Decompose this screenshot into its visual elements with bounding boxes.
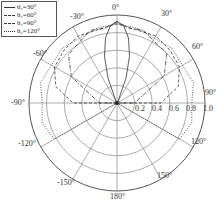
dotted-line-swatch-icon [4, 31, 15, 32]
angle-label-120: 120° [191, 137, 206, 146]
angle-label-150: 150° [157, 171, 172, 180]
angle-label-m150: -150° [57, 178, 75, 187]
angle-label-m120: -120° [18, 139, 36, 148]
radial-label-0.6: 0.6 [169, 104, 179, 113]
dashdot-line-swatch-icon [4, 15, 15, 16]
angle-label-90: 90° [205, 88, 216, 97]
radial-label-0.8: 0.8 [186, 104, 196, 113]
angle-label-0: 0° [112, 3, 119, 12]
legend-label: θ₀=30° [17, 3, 37, 11]
radial-label-1.0: 1.0 [203, 104, 213, 113]
legend-label: θ₀=120° [17, 27, 40, 35]
legend: θ₀=30° θ₀=60° θ₀=90° θ₀=120° [1, 1, 57, 37]
solid-line-swatch-icon [4, 7, 15, 8]
radial-label-0.2: 0.2 [135, 104, 145, 113]
legend-label: θ₀=90° [17, 19, 37, 27]
angle-label-60: 60° [192, 42, 203, 51]
dashed-line-swatch-icon [4, 23, 15, 24]
angle-label-m30: -30° [70, 12, 84, 21]
radial-label-0.4: 0.4 [152, 104, 162, 113]
legend-label: θ₀=60° [17, 11, 37, 19]
legend-item-60: θ₀=60° [4, 11, 54, 19]
angle-label-180: 180° [110, 192, 125, 201]
angle-label-m90: -90° [11, 98, 25, 107]
angle-label-30: 30° [161, 9, 172, 18]
legend-item-30: θ₀=30° [4, 3, 54, 11]
angle-label-m60: -60° [33, 49, 47, 58]
legend-item-90: θ₀=90° [4, 19, 54, 27]
legend-item-120: θ₀=120° [4, 27, 54, 35]
